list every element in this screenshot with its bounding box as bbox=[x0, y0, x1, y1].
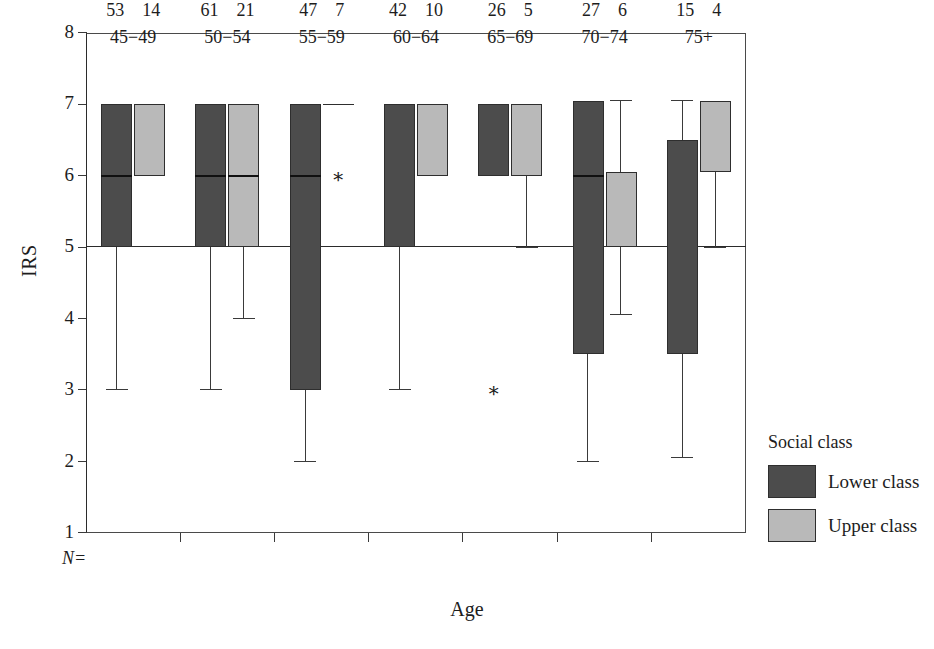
boxplot-figure: IRS 87654321 ∗∗ N= 53 1445−4961 2150−544… bbox=[0, 0, 934, 649]
legend-label-upper-class: Upper class bbox=[828, 515, 917, 537]
group-n-values: 15 4 bbox=[639, 0, 759, 21]
whisker-lower-cap bbox=[671, 457, 693, 458]
y-tick-label: 8 bbox=[44, 22, 74, 41]
box-lower-class bbox=[667, 140, 698, 354]
legend-swatch-upper-class bbox=[768, 509, 816, 542]
box-upper-class bbox=[134, 104, 165, 175]
outlier-marker: ∗ bbox=[329, 166, 347, 186]
legend-item-upper-class[interactable]: Upper class bbox=[768, 509, 928, 542]
x-tick-mark bbox=[180, 533, 181, 542]
box-lower-class bbox=[573, 101, 604, 355]
whisker-lower-cap bbox=[516, 247, 538, 248]
whisker-lower-stem bbox=[116, 247, 117, 390]
whisker-lower-stem bbox=[682, 354, 683, 458]
box-upper-class-flat bbox=[323, 104, 354, 105]
median-line-lower bbox=[195, 175, 226, 177]
legend-label-lower-class: Lower class bbox=[828, 471, 919, 493]
whisker-upper-cap bbox=[610, 100, 632, 101]
plot-area bbox=[86, 33, 746, 533]
whisker-upper-cap bbox=[671, 100, 693, 101]
whisker-lower-stem bbox=[399, 247, 400, 390]
x-tick-mark bbox=[274, 533, 275, 542]
box-lower-class bbox=[384, 104, 415, 247]
x-tick-mark bbox=[462, 533, 463, 542]
y-tick-label: 2 bbox=[44, 451, 74, 470]
whisker-lower-cap bbox=[610, 314, 632, 315]
whisker-lower-cap bbox=[106, 389, 128, 390]
legend-swatch-lower-class bbox=[768, 465, 816, 498]
y-tick-label: 7 bbox=[44, 93, 74, 112]
n-prefix-label: N= bbox=[62, 548, 86, 569]
x-tick-mark bbox=[368, 533, 369, 542]
median-line-lower bbox=[290, 175, 321, 177]
box-upper-class bbox=[511, 104, 542, 175]
x-tick-mark bbox=[651, 533, 652, 542]
y-tick-label: 3 bbox=[44, 379, 74, 398]
box-lower-class bbox=[290, 104, 321, 390]
whisker-lower-stem bbox=[526, 176, 527, 247]
legend: Social class Lower class Upper class bbox=[768, 432, 928, 553]
whisker-lower-stem bbox=[305, 390, 306, 461]
outlier-marker: ∗ bbox=[485, 380, 503, 400]
box-upper-class bbox=[700, 101, 731, 172]
box-upper-class bbox=[417, 104, 448, 175]
y-tick-label: 4 bbox=[44, 308, 74, 327]
y-tick-label: 6 bbox=[44, 165, 74, 184]
legend-title: Social class bbox=[768, 432, 928, 453]
x-axis-title: Age bbox=[0, 598, 934, 621]
box-upper-class bbox=[606, 172, 637, 247]
whisker-lower-cap bbox=[233, 318, 255, 319]
median-line-lower bbox=[101, 175, 132, 177]
y-tick-label: 5 bbox=[44, 236, 74, 255]
whisker-lower-cap bbox=[577, 461, 599, 462]
whisker-lower-cap bbox=[704, 247, 726, 248]
whisker-upper-stem bbox=[682, 101, 683, 140]
whisker-lower-stem bbox=[210, 247, 211, 390]
whisker-upper-stem bbox=[620, 101, 621, 172]
reference-line bbox=[86, 246, 746, 247]
y-axis-title: IRS bbox=[18, 244, 41, 277]
group-age-label: 75+ bbox=[639, 27, 759, 48]
y-tick-label: 1 bbox=[44, 522, 74, 541]
median-line-upper bbox=[228, 175, 259, 177]
legend-item-lower-class[interactable]: Lower class bbox=[768, 465, 928, 498]
whisker-lower-cap bbox=[200, 389, 222, 390]
whisker-lower-stem bbox=[587, 354, 588, 461]
box-lower-class bbox=[478, 104, 509, 175]
whisker-lower-cap bbox=[389, 389, 411, 390]
x-tick-mark bbox=[557, 533, 558, 542]
whisker-lower-stem bbox=[715, 172, 716, 247]
whisker-lower-stem bbox=[620, 247, 621, 315]
median-line-lower bbox=[573, 175, 604, 177]
whisker-lower-cap bbox=[294, 461, 316, 462]
whisker-lower-stem bbox=[243, 247, 244, 318]
